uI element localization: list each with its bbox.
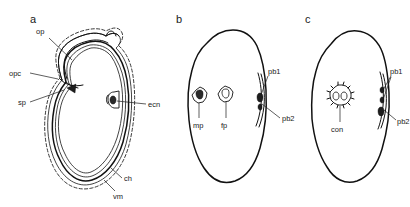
panel-b-letter: b xyxy=(176,13,182,25)
panel-c-con-nucleus-right xyxy=(341,92,347,100)
panel-a-label-ch: ch xyxy=(124,174,132,183)
panel-a-label-opc: opc xyxy=(9,69,21,78)
panel-b-label-pb1: pb1 xyxy=(268,67,281,76)
panel-c-label-pb2: pb2 xyxy=(397,117,410,126)
panel-b: b mp fp pb1 pb2 xyxy=(176,13,295,182)
leader-a-ch xyxy=(111,168,122,178)
panel-b-fp-nucleus xyxy=(222,89,229,98)
panel-a-label-op: op xyxy=(36,27,44,36)
leader-a-op xyxy=(49,38,72,60)
leader-c-pb2 xyxy=(384,110,396,120)
panel-a-inner-layer-2 xyxy=(58,48,122,173)
panel-c-label-pb1: pb1 xyxy=(390,67,403,76)
panel-a-letter: a xyxy=(30,13,37,25)
panel-a-label-vm: vm xyxy=(113,192,123,201)
figure-container: a xyxy=(0,0,410,207)
panel-a-inner-layer-1 xyxy=(55,45,125,177)
figure-svg: a xyxy=(0,0,410,207)
panel-a-label-sp: sp xyxy=(18,98,26,107)
panel-a-vitelline-membrane xyxy=(45,28,135,189)
panel-b-egg-outline xyxy=(188,30,266,182)
panel-c: c pb1 pb2 con xyxy=(305,13,410,182)
panel-c-letter: c xyxy=(305,13,311,25)
panel-c-egg-outline xyxy=(312,31,390,182)
panel-a-ecn-nucleus xyxy=(110,96,116,104)
leader-a-vm xyxy=(104,180,115,191)
panel-c-pb2-body xyxy=(378,107,384,116)
panel-b-label-fp: fp xyxy=(221,121,227,130)
panel-b-pb2-body xyxy=(258,104,262,110)
panel-a: a xyxy=(9,13,160,201)
leader-b-pb2 xyxy=(262,104,280,118)
panel-b-label-pb2: pb2 xyxy=(282,114,295,123)
panel-b-mp-nucleus xyxy=(196,90,203,99)
panel-c-label-con: con xyxy=(331,125,343,134)
panel-a-operculum xyxy=(58,33,119,80)
panel-b-label-mp: mp xyxy=(193,121,203,130)
leader-a-opc xyxy=(30,73,58,79)
panel-a-label-ecn: ecn xyxy=(148,100,160,109)
panel-b-pb1-body xyxy=(257,93,263,102)
panel-c-con-nucleus-left xyxy=(333,92,339,100)
